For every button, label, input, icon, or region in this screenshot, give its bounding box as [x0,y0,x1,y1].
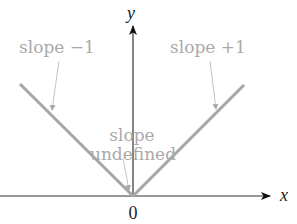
slope-undefined-label-line1: slope [109,125,154,145]
y-axis-label: y [125,3,135,23]
slope-minus-one-label: slope −1 [19,37,95,57]
left-pointer-arrow [52,61,59,110]
abs-value-diagram: slope −1 slope +1 slope undefined y x 0 [0,0,297,224]
origin-label: 0 [129,203,138,223]
right-pointer-arrow [210,61,216,109]
slope-plus-one-label: slope +1 [170,37,246,57]
x-axis-label: x [279,185,288,205]
slope-undefined-label-line2: undefined [90,144,176,164]
